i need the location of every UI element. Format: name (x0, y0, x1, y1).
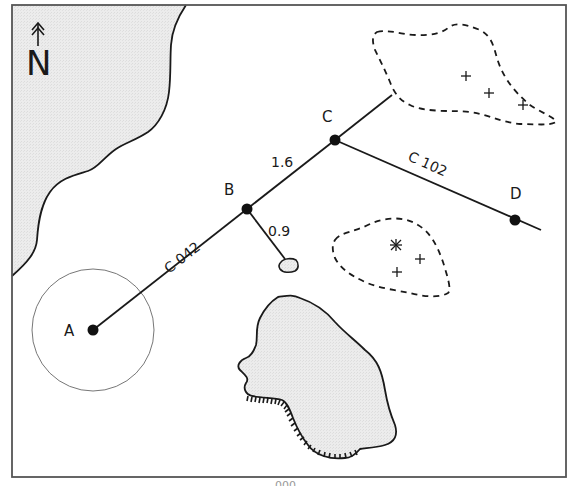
navigation-chart: N (0, 0, 571, 486)
label-b: B (224, 181, 234, 199)
label-distance-bc: 1.6 (271, 154, 293, 170)
waypoint-d (510, 215, 521, 226)
label-d: D (510, 185, 522, 203)
waypoint-c (330, 135, 341, 146)
waypoint-a (88, 325, 99, 336)
chart-canvas: N (0, 0, 571, 486)
rock (279, 259, 298, 273)
label-c: C (322, 108, 332, 126)
label-distance-b-rock: 0.9 (268, 223, 290, 239)
label-a: A (64, 322, 75, 340)
figure-caption: 000 (0, 478, 571, 486)
north-label: N (26, 43, 51, 83)
waypoint-b (242, 204, 253, 215)
